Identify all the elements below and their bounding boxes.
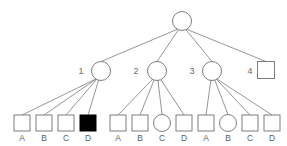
edge-node-2-to-D bbox=[161, 79, 184, 115]
node-3-circle bbox=[203, 62, 222, 81]
generation-three-labels: ABCDABCDABCD bbox=[19, 133, 275, 143]
child-label-1-C: C bbox=[63, 133, 69, 143]
node-1-circle bbox=[92, 62, 111, 81]
child-node-2-A-square bbox=[110, 115, 126, 131]
child-label-2-C: C bbox=[159, 133, 165, 143]
edge-root-to-node-1 bbox=[101, 29, 177, 61]
child-label-2-D: D bbox=[181, 133, 187, 143]
child-edges-group bbox=[22, 79, 272, 115]
pedigree-canvas: 1234 ABCDABCDABCD bbox=[0, 0, 287, 146]
pedigree-diagram: 1234 ABCDABCDABCD bbox=[0, 0, 287, 146]
child-label-2-B: B bbox=[137, 133, 143, 143]
child-node-2-C-circle bbox=[154, 115, 171, 132]
edge-node-3-to-A bbox=[206, 79, 211, 115]
child-label-2-A: A bbox=[115, 133, 121, 143]
child-label-3-B: B bbox=[225, 133, 231, 143]
edge-node-1-to-D bbox=[88, 79, 99, 115]
child-node-1-B-square bbox=[36, 115, 52, 131]
root-node-group bbox=[173, 12, 192, 31]
generation-three-nodes bbox=[14, 115, 280, 132]
root-edges-group bbox=[101, 29, 266, 61]
child-label-3-C: C bbox=[247, 133, 253, 143]
node-label-2: 2 bbox=[133, 66, 138, 76]
node-label-3: 3 bbox=[189, 66, 194, 76]
node-4-square bbox=[258, 62, 275, 79]
child-node-1-D-square bbox=[80, 115, 96, 131]
node-label-4: 4 bbox=[247, 66, 252, 76]
child-node-3-C-square bbox=[242, 115, 258, 131]
child-node-2-B-square bbox=[132, 115, 148, 131]
child-node-3-A-square bbox=[198, 115, 214, 131]
root-node-circle bbox=[173, 12, 192, 31]
child-label-1-B: B bbox=[41, 133, 47, 143]
child-node-3-B-circle bbox=[220, 115, 237, 132]
child-node-1-C-square bbox=[58, 115, 74, 131]
child-label-1-A: A bbox=[19, 133, 25, 143]
child-node-2-D-square bbox=[176, 115, 192, 131]
child-label-3-A: A bbox=[203, 133, 209, 143]
edge-root-to-node-2 bbox=[157, 29, 179, 61]
node-2-circle bbox=[148, 62, 167, 81]
edge-node-2-to-C bbox=[158, 79, 162, 114]
child-node-3-D-square bbox=[264, 115, 280, 131]
edge-node-1-to-A bbox=[22, 79, 96, 115]
child-node-1-A-square bbox=[14, 115, 30, 131]
node-label-1: 1 bbox=[78, 66, 83, 76]
child-label-3-D: D bbox=[269, 133, 275, 143]
child-label-1-D: D bbox=[85, 133, 91, 143]
